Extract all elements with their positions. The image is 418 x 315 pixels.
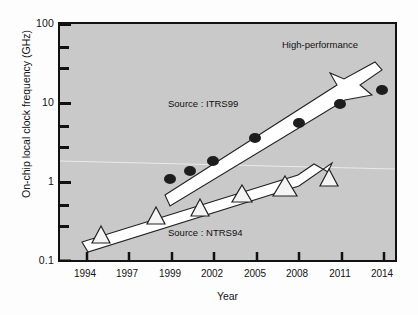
x-tick-label-2002: 2002 (189, 268, 235, 279)
x-tick-label-2011: 2011 (317, 268, 363, 279)
y-tick-label-100: 100 (26, 17, 54, 29)
x-tick-label-1994: 1994 (62, 268, 108, 279)
plot-area: High-performance Source : ITRS99 Source … (58, 22, 397, 262)
y-tick-label-0-1: 0.1 (26, 254, 54, 266)
x-tick-label-2008: 2008 (274, 268, 320, 279)
x-tick-label-1997: 1997 (104, 268, 150, 279)
annotation-high-performance: High-performance (282, 39, 358, 50)
y-axis-title: On-chip local clock frequency (GHz) (20, 4, 32, 224)
x-axis-ticks (87, 252, 384, 260)
x-tick-label-1999: 1999 (147, 268, 193, 279)
y-axis-ticks (60, 25, 71, 261)
plot-svg: High-performance Source : ITRS99 Source … (60, 24, 395, 260)
x-axis-title: Year (58, 290, 397, 302)
chart-figure: On-chip local clock frequency (GHz) Year… (0, 0, 418, 315)
series-label-itrs99: Source : ITRS99 (168, 98, 238, 109)
series-label-ntrs94: Source : NTRS94 (168, 227, 242, 238)
x-tick-label-2014: 2014 (359, 268, 405, 279)
y-tick-label-1: 1 (26, 175, 54, 187)
y-tick-label-10: 10 (26, 96, 54, 108)
x-tick-label-2005: 2005 (232, 268, 278, 279)
